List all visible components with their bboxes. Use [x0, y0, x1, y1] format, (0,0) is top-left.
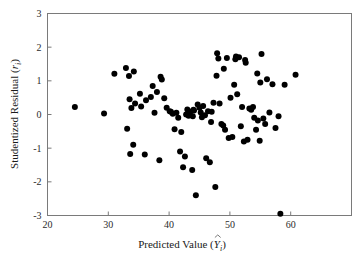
data-point	[209, 109, 215, 115]
data-point	[183, 112, 189, 118]
data-point	[282, 82, 288, 88]
data-point	[138, 103, 144, 109]
data-point	[264, 76, 270, 82]
scatter-plot-figure: 2030405060 -3-2-10123 Predicted Value (Y…	[0, 0, 364, 261]
y-axis-ticks: -3-2-10123	[33, 8, 51, 221]
data-point	[234, 91, 240, 97]
data-point	[152, 110, 158, 116]
data-point	[154, 89, 160, 95]
y-tick-label: 1	[37, 75, 42, 86]
y-axis-title-main: Studentized Residual (	[8, 69, 21, 169]
data-point	[212, 184, 218, 190]
data-point	[269, 81, 275, 87]
data-point	[126, 73, 132, 79]
data-point	[123, 65, 129, 71]
data-point	[242, 57, 248, 63]
data-point	[150, 83, 156, 89]
data-point	[72, 104, 78, 110]
data-point	[231, 82, 237, 88]
data-point	[255, 118, 261, 124]
data-point	[190, 107, 196, 113]
y-tick-label: 3	[37, 8, 42, 19]
data-point	[229, 134, 235, 140]
data-point	[215, 56, 221, 62]
y-tick-label: -3	[33, 210, 41, 221]
y-tick-label: -1	[33, 143, 41, 154]
data-point	[222, 127, 228, 133]
data-point	[172, 126, 178, 132]
x-axis-title: Predicted Value (Yi)	[138, 235, 226, 253]
data-point	[127, 96, 133, 102]
y-tick-label: 0	[37, 109, 42, 120]
data-point	[208, 119, 214, 125]
x-axis-title-main: Predicted Value (	[138, 238, 214, 251]
data-point	[262, 121, 268, 127]
data-point	[217, 100, 223, 106]
data-point	[131, 68, 137, 74]
data-point	[221, 66, 227, 72]
y-axis-title: Studentized Residual (ri)	[8, 59, 23, 169]
data-point	[259, 51, 265, 57]
data-point	[124, 126, 130, 132]
data-point	[190, 113, 196, 119]
x-tick-label: 30	[103, 219, 113, 230]
data-point	[257, 80, 263, 86]
x-tick-label: 50	[225, 219, 235, 230]
data-point	[214, 73, 220, 79]
data-point	[207, 159, 213, 165]
data-point	[168, 109, 174, 115]
x-tick-label: 60	[286, 219, 296, 230]
data-point	[111, 71, 117, 77]
data-point	[224, 55, 230, 61]
data-point	[253, 127, 259, 133]
data-point	[128, 105, 134, 111]
data-point	[276, 113, 282, 119]
data-point	[193, 192, 199, 198]
data-point	[266, 109, 272, 115]
y-tick-label: 2	[37, 42, 42, 53]
svg-text:Studentized Residual (ri): Studentized Residual (ri)	[8, 59, 23, 169]
data-point	[177, 149, 183, 155]
data-point	[161, 95, 167, 101]
data-point	[239, 104, 245, 110]
data-point	[101, 110, 107, 116]
data-point	[132, 100, 138, 106]
plot-canvas: 2030405060 -3-2-10123 Predicted Value (Y…	[0, 0, 364, 261]
y-axis-title-close: )	[8, 59, 21, 63]
data-point	[159, 76, 165, 82]
data-point	[277, 211, 283, 217]
data-point	[260, 116, 266, 122]
x-tick-label: 40	[164, 219, 174, 230]
data-point	[189, 167, 195, 173]
scatter-points	[72, 50, 299, 217]
data-point	[175, 115, 181, 121]
x-tick-label: 20	[43, 219, 53, 230]
data-point	[250, 104, 256, 110]
data-point	[293, 72, 299, 78]
data-point	[156, 157, 162, 163]
data-point	[228, 95, 234, 101]
data-point	[148, 94, 154, 100]
data-point	[142, 152, 148, 158]
data-point	[233, 54, 239, 60]
data-point	[245, 137, 251, 143]
data-point	[273, 125, 279, 131]
data-point	[214, 50, 220, 56]
data-point	[127, 151, 133, 157]
data-point	[178, 129, 184, 135]
y-tick-label: -2	[33, 176, 41, 187]
x-axis-title-close: )	[222, 238, 226, 251]
data-point	[143, 97, 149, 103]
data-point	[200, 103, 206, 109]
x-axis-ticks: 2030405060	[43, 212, 296, 230]
data-point	[180, 164, 186, 170]
data-point	[254, 70, 260, 76]
data-point	[257, 138, 263, 144]
data-point	[130, 142, 136, 148]
data-point	[238, 123, 244, 129]
data-point	[137, 91, 143, 97]
data-point	[182, 154, 188, 160]
data-point	[210, 100, 216, 106]
svg-text:Predicted Value (Yi): Predicted Value (Yi)	[138, 238, 226, 253]
